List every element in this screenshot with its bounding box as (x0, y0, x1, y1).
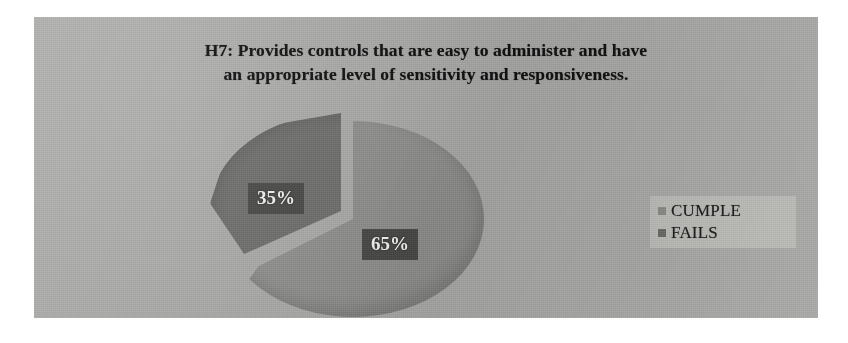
chart-legend: CUMPLE FAILS (650, 196, 796, 248)
legend-swatch-icon-cumple (658, 207, 666, 215)
legend-label-fails: FAILS (671, 223, 718, 243)
pie-chart: 35% 65% (184, 107, 514, 317)
legend-item-cumple[interactable]: CUMPLE (658, 200, 790, 222)
legend-swatch-icon-fails (658, 229, 666, 237)
chart-title-line-1: H7: Provides controls that are easy to a… (205, 40, 647, 60)
legend-item-fails[interactable]: FAILS (658, 222, 790, 244)
legend-label-cumple: CUMPLE (671, 201, 741, 221)
chart-title-line-2: an appropriate level of sensitivity and … (224, 64, 629, 84)
pie-data-label-fails: 35% (248, 183, 304, 214)
pie-data-label-cumple: 65% (362, 229, 418, 260)
chart-figure: H7: Provides controls that are easy to a… (0, 0, 848, 343)
chart-title: H7: Provides controls that are easy to a… (34, 38, 818, 86)
chart-plot-area: H7: Provides controls that are easy to a… (34, 17, 818, 318)
